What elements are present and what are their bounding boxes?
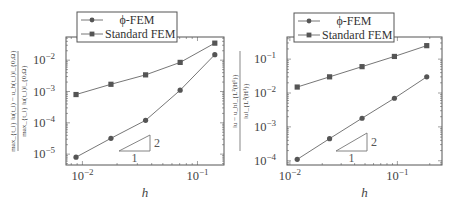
data-point-square [359,64,364,69]
legend: ϕ-FEMStandard FEM [294,13,394,42]
y-axis-label: ‖u − u_h‖_{L²(H¹)}‖u‖_{L²(H¹)} [231,51,250,151]
legend-entry-label: Standard FEM [322,28,393,42]
legend-circle-icon [90,18,95,23]
data-point-square [143,72,148,77]
x-tick-label: 10−2 [71,167,93,183]
y-tick-label: 10−5 [33,145,56,161]
slope-triangle [336,133,367,151]
data-point-circle [143,118,148,123]
y-tick-label: 10−4 [33,114,56,130]
data-point-square [108,82,113,87]
data-point-circle [295,157,300,162]
axis-ticks [66,37,224,165]
series-phi-fem [295,74,430,162]
data-point-square [212,41,217,46]
data-point-square [295,84,300,89]
x-tick-label: 10−2 [279,167,301,183]
chart-panel-right: 10−210−110−110−210−310−4h‖u − u_h‖_{L²(H… [231,13,442,200]
svg-text:max_{t_i} ‖u(t_i) − u_h(t_i)‖_: max_{t_i} ‖u(t_i) − u_h(t_i)‖_{0,Ω} [9,50,17,152]
x-tick-label: 10−1 [386,167,408,183]
slope-run-label: 1 [349,151,355,165]
data-point-circle [359,116,364,121]
slope-run-label: 1 [132,151,138,165]
series-phi-fem [73,52,217,160]
chart-panel-left: 10−210−110−210−310−410−5hmax_{t_i} ‖u(t_… [9,12,224,200]
x-tick-label: 10−1 [186,167,208,183]
slope-triangle [119,135,150,151]
legend-entry-label: ϕ-FEM [120,13,155,27]
data-point-circle [327,136,332,141]
data-point-circle [392,96,397,101]
data-point-square [73,92,78,97]
y-tick-label: 10−3 [33,83,56,99]
legend-circle-icon [307,19,312,24]
data-point-circle [178,88,183,93]
axes-frame [66,37,224,165]
data-point-square [424,43,429,48]
data-point-square [392,54,397,59]
data-point-circle [212,52,217,57]
figure: 10−210−110−210−310−410−5hmax_{t_i} ‖u(t_… [0,0,455,203]
legend: ϕ-FEMStandard FEM [77,12,177,42]
axes-frame [287,37,442,165]
legend-entry-label: Standard FEM [105,27,176,41]
legend-square-icon [90,32,95,37]
data-point-square [327,74,332,79]
legend-entry-label: ϕ-FEM [337,14,372,28]
slope-rise-label: 2 [371,135,377,149]
y-tick-label: 10−1 [254,50,276,66]
x-axis-label: h [142,185,149,200]
y-axis-label: max_{t_i} ‖u(t_i) − u_h(t_i)‖_{0,Ω}max_{… [9,50,28,152]
legend-square-icon [307,33,312,38]
svg-text:max_{t_i} ‖u(t_i)‖_{0,Ω}: max_{t_i} ‖u(t_i)‖_{0,Ω} [20,65,28,137]
y-tick-label: 10−2 [254,84,276,100]
series-standard-fem [73,41,217,98]
data-point-square [178,60,183,65]
y-tick-label: 10−2 [33,51,55,67]
svg-text:‖u‖_{L²(H¹)}: ‖u‖_{L²(H¹)} [242,83,250,119]
axis-ticks [287,37,442,165]
data-point-circle [108,136,113,141]
y-tick-label: 10−3 [254,118,277,134]
svg-text:‖u − u_h‖_{L²(H¹)}: ‖u − u_h‖_{L²(H¹)} [231,74,239,128]
x-axis-label: h [361,185,368,200]
slope-rise-label: 2 [154,136,160,150]
data-point-circle [73,155,78,160]
series-standard-fem [295,43,430,90]
y-tick-label: 10−4 [254,152,277,168]
data-point-circle [424,74,429,79]
